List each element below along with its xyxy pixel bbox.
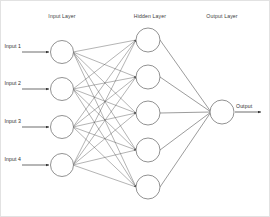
input-label-2: Input 2 bbox=[4, 80, 21, 86]
input-node-1[interactable] bbox=[51, 41, 74, 64]
hidden-node-3[interactable] bbox=[136, 101, 160, 125]
edges-input-to-hidden bbox=[73, 40, 136, 187]
input-label-1: Input 1 bbox=[4, 43, 21, 49]
network-canvas: Input Layer Hidden Layer Output Layer bbox=[0, 0, 270, 217]
input-layer-nodes bbox=[51, 41, 74, 177]
hidden-node-5[interactable] bbox=[136, 175, 160, 199]
hidden-layer-nodes bbox=[136, 28, 160, 199]
output-layer-nodes bbox=[210, 100, 234, 124]
input-node-4[interactable] bbox=[51, 154, 74, 177]
output-node-1[interactable] bbox=[210, 100, 234, 124]
hidden-node-1[interactable] bbox=[136, 28, 160, 52]
layer-title-output: Output Layer bbox=[206, 13, 238, 19]
hidden-node-4[interactable] bbox=[136, 138, 160, 162]
input-arrows bbox=[22, 52, 49, 165]
hidden-node-2[interactable] bbox=[136, 65, 160, 89]
input-label-4: Input 4 bbox=[4, 156, 21, 162]
neural-network-diagram: Input Layer Hidden Layer Output Layer bbox=[0, 0, 270, 217]
edges-hidden-to-output bbox=[160, 40, 211, 187]
input-label-3: Input 3 bbox=[4, 118, 21, 124]
layer-title-hidden: Hidden Layer bbox=[134, 13, 166, 19]
input-node-2[interactable] bbox=[51, 78, 74, 101]
output-label-1: Output bbox=[236, 103, 253, 109]
layer-title-input: Input Layer bbox=[48, 13, 75, 19]
input-node-3[interactable] bbox=[51, 116, 74, 139]
